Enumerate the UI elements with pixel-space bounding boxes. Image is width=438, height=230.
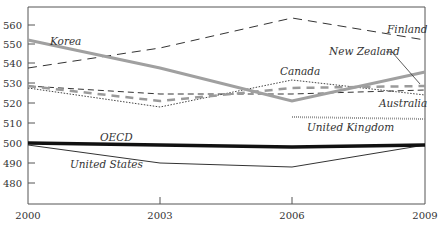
label-oecd: OECD [100,131,133,143]
y-tick-label: 490 [3,158,22,169]
series-labels: Korea Finland New Zealand Canada Austral… [49,23,428,170]
series-lines [28,18,425,167]
label-canada: Canada [280,65,320,77]
y-tick-label: 540 [3,58,22,69]
label-australia: Australia [378,97,427,109]
y-axis: 560 550 540 530 520 510 500 490 480 [3,20,35,189]
series-oecd [28,143,425,147]
x-tick-label: 2003 [147,210,172,221]
plot-frame [28,7,425,204]
series-finland [28,18,425,68]
x-tick-label: 2009 [412,210,437,221]
label-united-kingdom: United Kingdom [307,121,394,133]
x-axis: 2000 2003 2006 2009 [15,197,437,221]
y-tick-label: 550 [3,39,22,50]
x-tick-label: 2006 [279,210,304,221]
y-tick-label: 510 [3,118,22,129]
y-tick-label: 560 [3,20,22,31]
label-korea: Korea [49,35,81,47]
x-tick-label: 2000 [15,210,40,221]
label-united-states: United States [70,158,144,170]
y-tick-label: 500 [3,138,22,149]
y-tick-label: 520 [3,98,22,109]
y-tick-label: 480 [3,178,22,189]
series-united-kingdom [292,117,425,119]
y-tick-label: 530 [3,78,22,89]
label-new-zealand: New Zealand [328,45,400,57]
line-chart: 560 550 540 530 520 510 500 490 480 2000… [0,0,438,230]
label-finland: Finland [386,23,428,35]
